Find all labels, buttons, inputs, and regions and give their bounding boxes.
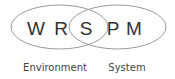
letter-w: W xyxy=(27,18,45,39)
venn-diagram: W R S P M Environment System xyxy=(0,0,175,79)
environment-label: Environment xyxy=(23,62,87,73)
letter-m: M xyxy=(126,18,142,39)
letter-s: S xyxy=(80,18,93,39)
letter-r: R xyxy=(54,18,68,39)
letter-p: P xyxy=(107,18,120,39)
system-label: System xyxy=(108,62,145,73)
